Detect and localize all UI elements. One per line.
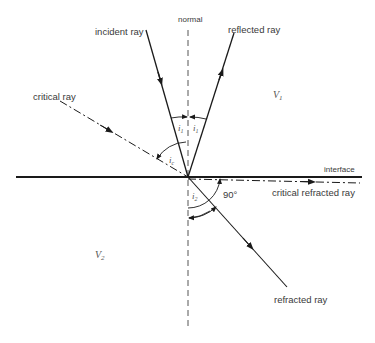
refracted-ray-label: refracted ray xyxy=(274,294,328,305)
svg-text:V2: V2 xyxy=(95,249,105,262)
svg-text:ic: ic xyxy=(169,155,175,166)
svg-text:i2: i2 xyxy=(192,191,198,202)
interface-label: interface xyxy=(324,165,355,174)
medium-v2-label: V2 xyxy=(95,249,105,262)
angle-i1-reflected-label: i1 xyxy=(193,123,199,134)
angle-90-label: 90° xyxy=(223,189,238,200)
angle-arc-refracted xyxy=(189,207,216,218)
medium-v1-label: V1 xyxy=(273,89,283,102)
angle-ic-label: ic xyxy=(169,155,175,166)
svg-text:V1: V1 xyxy=(273,89,283,102)
ray-diagram: normal incident ray reflected ray critic… xyxy=(0,0,375,343)
svg-text:i1: i1 xyxy=(193,123,199,134)
critical-refracted-ray xyxy=(188,179,360,183)
reflected-ray xyxy=(188,33,234,177)
critical-ray-label: critical ray xyxy=(33,91,76,102)
normal-label: normal xyxy=(178,15,203,24)
svg-text:i1: i1 xyxy=(178,123,184,134)
incident-ray-label: incident ray xyxy=(95,26,144,37)
reflected-ray-label: reflected ray xyxy=(228,24,281,35)
angle-i2-label: i2 xyxy=(192,191,198,202)
critical-ray xyxy=(60,101,188,177)
angle-i1-incident-label: i1 xyxy=(178,123,184,134)
angle-arc-incident xyxy=(171,117,187,118)
critical-refracted-ray-label: critical refracted ray xyxy=(272,187,355,198)
incident-ray xyxy=(146,30,188,177)
angle-arc-reflected xyxy=(190,117,206,119)
